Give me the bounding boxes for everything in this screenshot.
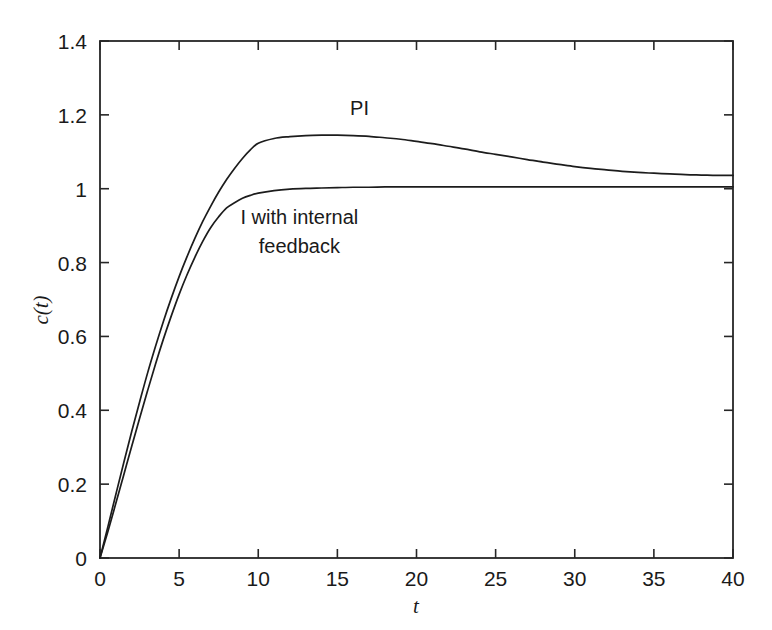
x-tick-label: 10 — [247, 567, 270, 590]
y-axis-title: c(t) — [29, 295, 53, 324]
plot-frame — [100, 41, 733, 558]
x-tick-labels: 0510152025303540 — [94, 567, 745, 590]
x-tick-label: 20 — [405, 567, 428, 590]
x-tick-label: 25 — [484, 567, 507, 590]
y-tick-label: 0.4 — [58, 399, 88, 422]
x-tick-label: 35 — [642, 567, 665, 590]
series-curve — [100, 187, 733, 558]
series-annotation-label: PI — [350, 97, 369, 119]
data-series-group — [100, 135, 733, 558]
series-annotation-label: I with internal — [240, 206, 358, 228]
x-tick-label: 40 — [721, 567, 744, 590]
y-tick-label: 1.4 — [58, 30, 88, 53]
x-axis-title: t — [413, 594, 420, 618]
axis-ticks — [100, 41, 733, 558]
step-response-chart: 0510152025303540 00.20.40.60.811.21.4 PI… — [0, 0, 772, 630]
x-tick-label: 5 — [173, 567, 185, 590]
x-tick-label: 15 — [326, 567, 349, 590]
series-annotation-label: feedback — [259, 235, 341, 257]
y-tick-label: 1 — [75, 178, 87, 201]
x-tick-label: 0 — [94, 567, 106, 590]
y-tick-label: 1.2 — [58, 104, 87, 127]
x-tick-label: 30 — [563, 567, 586, 590]
y-tick-label: 0.8 — [58, 252, 87, 275]
y-tick-labels: 00.20.40.60.811.21.4 — [58, 30, 88, 570]
series-curve — [100, 135, 733, 558]
y-tick-label: 0 — [75, 547, 87, 570]
y-tick-label: 0.2 — [58, 473, 87, 496]
figure-canvas: 0510152025303540 00.20.40.60.811.21.4 PI… — [0, 0, 772, 630]
y-tick-label: 0.6 — [58, 325, 87, 348]
series-annotations: PII with internalfeedback — [240, 97, 369, 257]
